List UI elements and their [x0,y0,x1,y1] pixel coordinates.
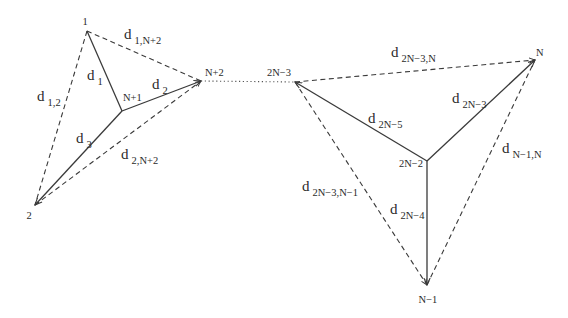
edge-label-subscript: 2N−5 [379,119,403,130]
edge-label-base: d [152,76,160,92]
node-label-2: 2 [26,210,31,221]
edge-2n-2-to-n [427,60,535,161]
edge-label-subscript: 1 [98,76,103,87]
edge-label-base: d [121,146,129,162]
edge-nplus2-to-2n-3 [201,81,295,82]
edge-label-subscript: N−1,N [513,149,542,160]
edge-nplus1-to-2 [35,111,122,205]
edge-label-d-1: d1 [87,67,103,87]
edge-label-base: d [502,140,510,156]
edge-label-base: d [391,44,399,60]
edge-label-d-1-2: d1,2 [37,88,61,108]
edge-label-d-2-nplus2: d2,N+2 [121,146,158,166]
edge-label-base: d [124,26,132,42]
edge-label-d-2nminus3: d2N−3 [452,90,487,110]
edge-label-base: d [76,130,84,146]
edge-label-subscript: 3 [87,139,92,150]
edge-label-subscript: 2N−4 [401,210,426,221]
edge-label-subscript: 1,2 [48,97,61,108]
edge-label-base: d [302,178,310,194]
edge-label-base: d [87,67,95,83]
edge-label-d-2nminus3-nminus1: d2N−3,N−1 [302,178,358,198]
edge-2n-3-to-n-1 [295,82,427,285]
edge-label-d-2nminus3-n: d2N−3,N [391,44,436,64]
edge-1-to-2 [35,31,87,205]
node-labels-layer: 12N+1N+22N−3N2N−2N−1 [26,16,544,305]
edge-label-subscript: 2N−3,N−1 [313,187,358,198]
edge-label-subscript: 2N−3,N [402,53,437,64]
edge-label-d-3: d3 [76,130,92,150]
edge-label-d-2: d2 [152,76,168,96]
node-label-2n-2: 2N−2 [399,158,423,169]
edge-label-subscript: 2 [163,85,168,96]
node-label-n: N [536,47,544,58]
edge-label-base: d [390,201,398,217]
edge-label-base: d [452,90,460,106]
graph-diagram: 12N+1N+22N−3N2N−2N−1 d1,N+2d1d2d1,2d3d2,… [0,0,568,318]
node-label-2n-3: 2N−3 [267,67,291,78]
node-label-1: 1 [82,16,87,27]
edge-label-d-2nminus4: d2N−4 [390,201,425,221]
edge-label-subscript: 2,N+2 [132,155,159,166]
node-label-nplus2: N+2 [205,67,224,78]
edge-label-subscript: 1,N+2 [135,35,162,46]
edge-label-d-2nminus5: d2N−5 [368,110,403,130]
edge-2n-2-to-2n-3 [295,82,427,161]
edge-label-base: d [37,88,45,104]
node-label-n-1: N−1 [419,294,438,305]
edge-label-d-1-nplus2: d1,N+2 [124,26,161,46]
edge-label-d-nminus1-n: dN−1,N [502,140,542,160]
edge-label-subscript: 2N−3 [463,99,487,110]
edge-label-base: d [368,110,376,126]
edge-n-1-to-n [427,60,535,285]
node-label-nplus1: N+1 [123,92,142,103]
